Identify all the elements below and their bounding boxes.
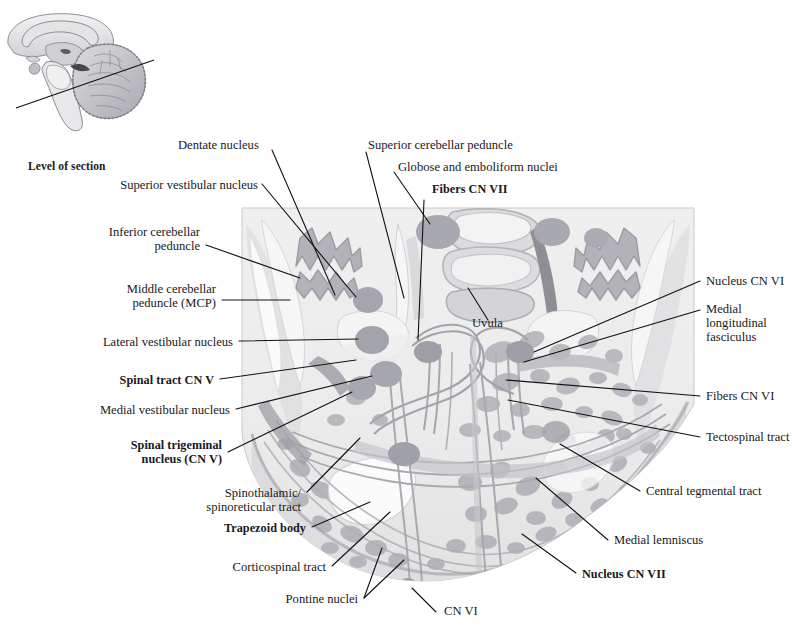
lateral-vestibular-nucleus: [355, 326, 389, 354]
label-superior-vestibular-nucleus: Superior vestibular nucleus: [0, 178, 258, 192]
label-fibers-cn-vii: Fibers CN VII: [432, 182, 508, 196]
label-nucleus-cn-vii: Nucleus CN VII: [582, 567, 666, 581]
label-lateral-vestibular-nucleus: Lateral vestibular nucleus: [0, 335, 233, 349]
label-fibers-cn-vi: Fibers CN VI: [706, 389, 774, 403]
figure-page: Pons: Level of the Genu of the Facial Ne…: [0, 0, 792, 632]
uvula-lobule-upper: [454, 213, 531, 244]
label-corticospinal-tract: Corticospinal tract: [0, 560, 326, 574]
nucleus-cn-vii-right: [542, 421, 570, 443]
label-superior-cerebellar-peduncle: Superior cerebellar peduncle: [368, 138, 513, 152]
nucleus-cn-vi-right: [506, 341, 534, 363]
label-spinothalamic-spinoreticular: Spinothalamic/ spinoreticular tract: [0, 486, 301, 514]
label-globose-emboliform-nuclei: Globose and emboliform nuclei: [398, 160, 558, 174]
label-spinal-trigeminal-nucleus: Spinal trigeminal nucleus (CN V): [0, 438, 222, 466]
nucleus-cn-vii-left: [388, 442, 420, 466]
cn-vi-exit-right: [490, 577, 506, 591]
label-tectospinal-tract: Tectospinal tract: [706, 430, 789, 444]
label-nucleus-cn-vi: Nucleus CN VI: [706, 274, 784, 288]
nucleus-cn-vi-left: [414, 341, 442, 363]
label-pontine-nuclei: Pontine nuclei: [0, 592, 358, 606]
superior-vestibular-nucleus: [353, 287, 383, 313]
label-middle-cerebellar-peduncle: Middle cerebellar peduncle (MCP): [0, 282, 216, 310]
label-medial-vestibular-nucleus: Medial vestibular nucleus: [0, 403, 230, 417]
label-uvula: Uvula: [472, 316, 503, 330]
label-medial-lemniscus: Medial lemniscus: [614, 533, 703, 547]
globose-emboliform-right: [534, 218, 570, 246]
spinal-trigeminal-nucleus: [348, 376, 376, 400]
globose-emboliform-right2: [584, 228, 608, 248]
label-central-tegmental-tract: Central tegmental tract: [646, 484, 761, 498]
label-dentate-nucleus: Dentate nucleus: [178, 138, 259, 152]
label-medial-longitudinal-fasciculus: Medial longitudinal fasciculus: [706, 302, 767, 345]
label-trapezoid-body: Trapezoid body: [0, 521, 306, 535]
leader-cn-vi: [412, 588, 436, 612]
medial-vestibular-nucleus: [370, 361, 402, 387]
label-inferior-cerebellar-peduncle: Inferior cerebellar peduncle: [0, 225, 200, 253]
label-spinal-tract-cn-v: Spinal tract CN V: [0, 373, 214, 387]
label-cn-vi: CN VI: [444, 604, 478, 618]
